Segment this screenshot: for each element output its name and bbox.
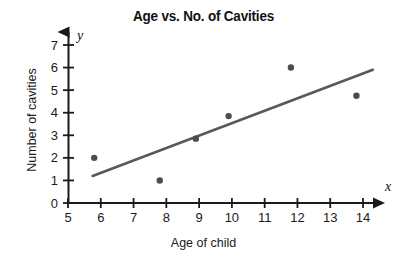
scatter-plot-canvas: 567891011121314 01234567 x y — [0, 0, 407, 269]
x-tick-label: 14 — [356, 210, 370, 225]
chart-figure: Age vs. No. of Cavities 567891011121314 … — [0, 0, 407, 269]
trend-line-segment — [93, 70, 373, 176]
x-axis-tick-labels: 567891011121314 — [64, 210, 370, 225]
x-tick-label: 10 — [225, 210, 239, 225]
y-axis-tick-labels: 01234567 — [51, 38, 58, 211]
data-point — [288, 64, 294, 70]
x-tick-label: 9 — [195, 210, 202, 225]
x-tick-label: 7 — [130, 210, 137, 225]
y-tick-label: 1 — [51, 173, 58, 188]
y-tick-label: 7 — [51, 38, 58, 53]
x-axis-symbol-label: x — [384, 179, 392, 194]
data-point — [91, 155, 97, 161]
y-tick-label: 5 — [51, 83, 58, 98]
data-point — [193, 135, 199, 141]
data-points-group — [91, 64, 360, 183]
x-tick-label: 12 — [290, 210, 304, 225]
y-tick-label: 3 — [51, 128, 58, 143]
y-axis-symbol-label: y — [75, 28, 84, 43]
x-tick-label: 8 — [163, 210, 170, 225]
x-tick-label: 5 — [64, 210, 71, 225]
y-tick-label: 0 — [51, 196, 58, 211]
y-tick-label: 4 — [51, 105, 58, 120]
data-point — [225, 113, 231, 119]
x-tick-label: 6 — [97, 210, 104, 225]
data-point — [157, 177, 163, 183]
x-tick-label: 11 — [258, 210, 272, 225]
y-tick-label: 2 — [51, 150, 58, 165]
x-axis-title: Age of child — [0, 236, 407, 250]
trend-line — [93, 70, 373, 176]
y-tick-label: 6 — [51, 60, 58, 75]
axes-group — [68, 32, 374, 203]
data-point — [353, 93, 359, 99]
x-tick-label: 13 — [323, 210, 337, 225]
y-axis-title: Number of cavities — [25, 45, 39, 195]
